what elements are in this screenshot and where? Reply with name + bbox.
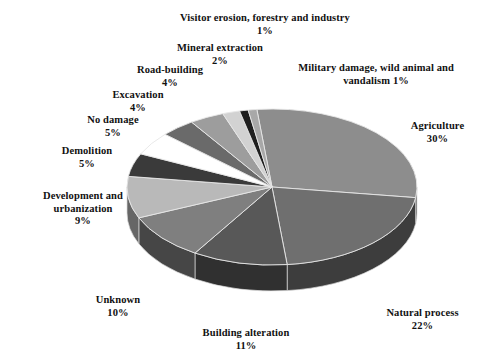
label-road-building: Road-building 4%	[90, 64, 250, 89]
label-unknown-name: Unknown	[96, 294, 140, 305]
label-natural-process-pct: 22%	[355, 320, 490, 333]
label-no-damage-name: No damage	[87, 114, 138, 125]
label-demolition-pct: 5%	[12, 158, 162, 171]
label-road-building-name: Road-building	[137, 64, 203, 75]
label-excavation: Excavation 4%	[63, 89, 213, 114]
label-natural-process: Natural process 22%	[355, 307, 490, 332]
label-agriculture: Agriculture 30%	[385, 120, 490, 145]
label-agriculture-pct: 30%	[385, 133, 490, 146]
label-unknown: Unknown 10%	[58, 294, 178, 319]
label-building-alteration-pct: 11%	[166, 340, 326, 353]
label-no-damage: No damage 5%	[38, 114, 188, 139]
label-unknown-pct: 10%	[58, 307, 178, 320]
label-military-name-line1: Military damage, wild animal and	[298, 62, 454, 73]
label-excavation-pct: 4%	[63, 102, 213, 115]
label-no-damage-pct: 5%	[38, 127, 188, 140]
label-building-alteration-name: Building alteration	[203, 327, 290, 338]
label-visitor-erosion: Visitor erosion, forestry and industry 1…	[140, 12, 390, 37]
label-demolition-name: Demolition	[62, 145, 113, 156]
label-military-damage: Military damage, wild animal and vandali…	[262, 62, 490, 87]
label-visitor-erosion-name: Visitor erosion, forestry and industry	[180, 12, 350, 23]
label-mineral-extraction-name: Mineral extraction	[177, 42, 263, 53]
label-development-name-line2: urbanization	[8, 203, 158, 216]
label-development-pct: 9%	[8, 215, 158, 228]
pie-chart-figure: Agriculture 30%Natural process 22%Buildi…	[0, 0, 493, 361]
label-development-urbanization: Development and urbanization 9%	[8, 190, 158, 228]
label-development-name-line1: Development and	[43, 190, 123, 201]
label-building-alteration: Building alteration 11%	[166, 327, 326, 352]
label-excavation-name: Excavation	[112, 89, 163, 100]
label-demolition: Demolition 5%	[12, 145, 162, 170]
label-military-name-line2: vandalism 1%	[262, 75, 490, 88]
label-agriculture-name: Agriculture	[411, 120, 464, 131]
label-road-building-pct: 4%	[90, 77, 250, 90]
label-natural-process-name: Natural process	[386, 307, 458, 318]
label-visitor-erosion-pct: 1%	[140, 25, 390, 38]
